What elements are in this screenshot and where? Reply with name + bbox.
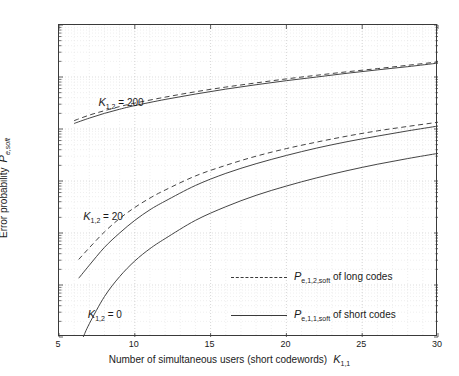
y-axis-title-symbol-subscript: e,soft <box>4 138 11 155</box>
legend-swatch-dashed <box>231 277 287 278</box>
legend-subscript: e,1,1,soft <box>301 315 330 322</box>
x-tick-label-5: 30 <box>432 339 442 349</box>
x-tick-label-3: 20 <box>280 339 290 349</box>
x-axis-title-symbol-subscript: 1,1 <box>341 360 351 367</box>
y-axis-title-symbol: P <box>0 155 9 167</box>
legend-item-1: Pe,1,1,soft of short codes <box>231 308 396 322</box>
legend-swatch-solid <box>231 315 287 316</box>
figure-container: 10-710-610-510-410-310-210-1 Error proba… <box>0 0 459 376</box>
legend-subscript: e,1,2,soft <box>301 277 330 284</box>
x-tick-label-0: 5 <box>55 339 60 349</box>
x-axis-title: Number of simultaneous users (short code… <box>0 353 459 367</box>
legend-label-1: Pe,1,1,soft of short codes <box>294 308 396 322</box>
x-tick-label-1: 10 <box>129 339 139 349</box>
legend-label-0: Pe,1,2,soft of long codes <box>294 270 392 284</box>
x-axis-title-symbol: K <box>327 353 340 365</box>
x-axis-title-text: Number of simultaneous users (short code… <box>109 354 327 365</box>
plot-area: K1,2 = 200K1,2 = 20K1,2 = 0 Pe,1,2,soft … <box>58 24 437 336</box>
x-tick-label-4: 25 <box>356 339 366 349</box>
y-axis-title: Error probabilityPe,soft <box>0 138 11 238</box>
y-axis-title-text: Error probability <box>0 167 9 238</box>
legend-item-0: Pe,1,2,soft of long codes <box>231 270 392 284</box>
legend: Pe,1,2,soft of long codesPe,1,1,soft of … <box>59 25 436 335</box>
x-tick-label-2: 15 <box>205 339 215 349</box>
legend-description: of short codes <box>330 309 396 320</box>
legend-description: of long codes <box>330 271 392 282</box>
